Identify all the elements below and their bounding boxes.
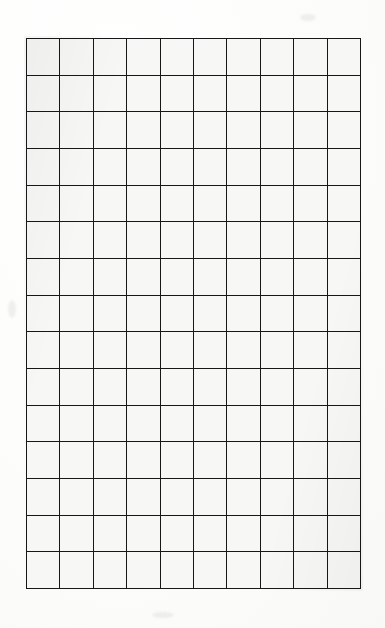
grid-cell[interactable] bbox=[27, 222, 60, 259]
grid-cell[interactable] bbox=[93, 478, 126, 515]
grid-cell[interactable] bbox=[227, 405, 260, 442]
grid-cell[interactable] bbox=[227, 258, 260, 295]
grid-cell[interactable] bbox=[93, 442, 126, 479]
grid-cell[interactable] bbox=[93, 148, 126, 185]
grid-cell[interactable] bbox=[260, 112, 293, 149]
grid-cell[interactable] bbox=[294, 295, 327, 332]
grid-cell[interactable] bbox=[193, 332, 226, 369]
grid-cell[interactable] bbox=[93, 185, 126, 222]
grid-cell[interactable] bbox=[193, 368, 226, 405]
grid-cell[interactable] bbox=[294, 112, 327, 149]
grid-cell[interactable] bbox=[327, 442, 360, 479]
grid-cell[interactable] bbox=[27, 332, 60, 369]
grid-cell[interactable] bbox=[27, 295, 60, 332]
grid-cell[interactable] bbox=[127, 405, 160, 442]
grid-cell[interactable] bbox=[127, 295, 160, 332]
grid-cell[interactable] bbox=[227, 185, 260, 222]
grid-cell[interactable] bbox=[127, 515, 160, 552]
grid-cell[interactable] bbox=[260, 368, 293, 405]
grid-cell[interactable] bbox=[127, 552, 160, 589]
grid-cell[interactable] bbox=[193, 185, 226, 222]
grid-cell[interactable] bbox=[27, 442, 60, 479]
grid-cell[interactable] bbox=[294, 258, 327, 295]
grid-cell[interactable] bbox=[260, 75, 293, 112]
grid-cell[interactable] bbox=[60, 442, 93, 479]
grid-cell[interactable] bbox=[260, 295, 293, 332]
grid-cell[interactable] bbox=[160, 368, 193, 405]
grid-cell[interactable] bbox=[260, 148, 293, 185]
grid-cell[interactable] bbox=[193, 552, 226, 589]
grid-cell[interactable] bbox=[27, 39, 60, 76]
grid-cell[interactable] bbox=[193, 39, 226, 76]
grid-cell[interactable] bbox=[260, 515, 293, 552]
grid-cell[interactable] bbox=[327, 112, 360, 149]
grid-cell[interactable] bbox=[193, 258, 226, 295]
grid-cell[interactable] bbox=[294, 75, 327, 112]
grid-cell[interactable] bbox=[294, 332, 327, 369]
grid-cell[interactable] bbox=[93, 75, 126, 112]
grid-cell[interactable] bbox=[260, 405, 293, 442]
grid-cell[interactable] bbox=[227, 39, 260, 76]
grid-cell[interactable] bbox=[60, 515, 93, 552]
grid-cell[interactable] bbox=[127, 112, 160, 149]
grid-cell[interactable] bbox=[60, 258, 93, 295]
grid-cell[interactable] bbox=[327, 368, 360, 405]
grid-cell[interactable] bbox=[27, 148, 60, 185]
grid-cell[interactable] bbox=[93, 405, 126, 442]
grid-cell[interactable] bbox=[193, 148, 226, 185]
grid-cell[interactable] bbox=[260, 442, 293, 479]
grid-cell[interactable] bbox=[160, 442, 193, 479]
grid-cell[interactable] bbox=[160, 75, 193, 112]
grid-cell[interactable] bbox=[93, 39, 126, 76]
grid-cell[interactable] bbox=[227, 515, 260, 552]
grid-cell[interactable] bbox=[294, 442, 327, 479]
grid-cell[interactable] bbox=[93, 112, 126, 149]
grid-cell[interactable] bbox=[127, 332, 160, 369]
grid-cell[interactable] bbox=[160, 258, 193, 295]
grid-cell[interactable] bbox=[327, 39, 360, 76]
grid-cell[interactable] bbox=[27, 75, 60, 112]
grid-cell[interactable] bbox=[227, 112, 260, 149]
grid-cell[interactable] bbox=[260, 332, 293, 369]
grid-cell[interactable] bbox=[160, 552, 193, 589]
grid-cell[interactable] bbox=[127, 39, 160, 76]
grid-cell[interactable] bbox=[294, 185, 327, 222]
grid-cell[interactable] bbox=[60, 185, 93, 222]
grid-cell[interactable] bbox=[160, 332, 193, 369]
grid-cell[interactable] bbox=[160, 112, 193, 149]
grid-cell[interactable] bbox=[294, 39, 327, 76]
grid-cell[interactable] bbox=[227, 222, 260, 259]
grid-cell[interactable] bbox=[227, 442, 260, 479]
grid-cell[interactable] bbox=[260, 222, 293, 259]
grid-cell[interactable] bbox=[327, 295, 360, 332]
grid-cell[interactable] bbox=[260, 258, 293, 295]
grid-cell[interactable] bbox=[193, 515, 226, 552]
grid-cell[interactable] bbox=[27, 112, 60, 149]
grid-cell[interactable] bbox=[27, 258, 60, 295]
grid-cell[interactable] bbox=[227, 295, 260, 332]
grid-cell[interactable] bbox=[60, 75, 93, 112]
grid-cell[interactable] bbox=[127, 368, 160, 405]
grid-cell[interactable] bbox=[27, 368, 60, 405]
grid-cell[interactable] bbox=[27, 515, 60, 552]
grid-cell[interactable] bbox=[93, 258, 126, 295]
grid-cell[interactable] bbox=[60, 368, 93, 405]
grid-cell[interactable] bbox=[127, 185, 160, 222]
grid-cell[interactable] bbox=[93, 222, 126, 259]
grid-cell[interactable] bbox=[160, 478, 193, 515]
grid-cell[interactable] bbox=[227, 332, 260, 369]
grid-cell[interactable] bbox=[327, 515, 360, 552]
grid-cell[interactable] bbox=[160, 515, 193, 552]
grid-cell[interactable] bbox=[160, 185, 193, 222]
grid-cell[interactable] bbox=[160, 222, 193, 259]
grid-cell[interactable] bbox=[327, 258, 360, 295]
grid-cell[interactable] bbox=[127, 478, 160, 515]
grid-cell[interactable] bbox=[327, 148, 360, 185]
grid-cell[interactable] bbox=[60, 39, 93, 76]
grid-cell[interactable] bbox=[127, 148, 160, 185]
grid-cell[interactable] bbox=[294, 148, 327, 185]
grid-cell[interactable] bbox=[127, 75, 160, 112]
grid-cell[interactable] bbox=[60, 405, 93, 442]
grid-cell[interactable] bbox=[193, 112, 226, 149]
grid-cell[interactable] bbox=[227, 368, 260, 405]
